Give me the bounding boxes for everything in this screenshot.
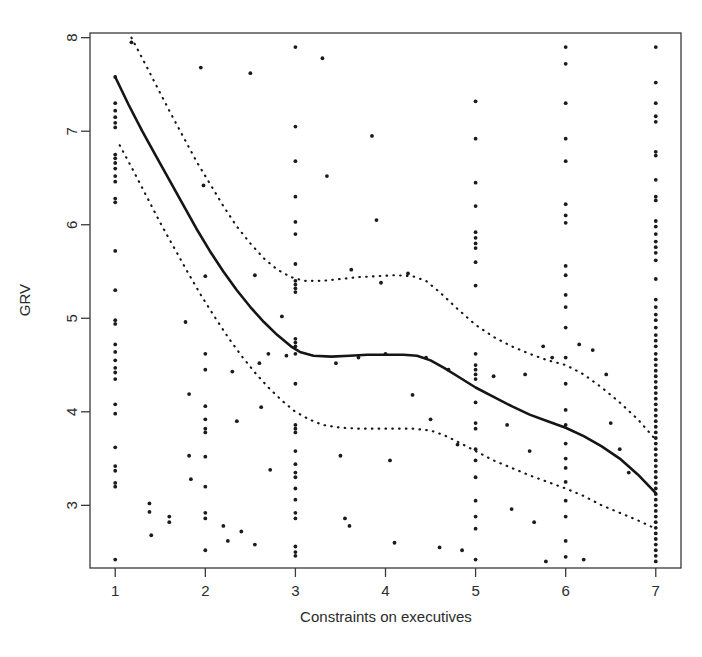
data-point [474, 284, 478, 288]
data-point [113, 156, 117, 160]
data-point [257, 361, 261, 365]
data-point [203, 517, 207, 521]
data-point [505, 423, 509, 427]
data-point [113, 445, 117, 449]
data-point [564, 466, 568, 470]
data-point [294, 279, 298, 283]
data-point [654, 258, 658, 262]
data-point [474, 515, 478, 519]
data-point [654, 318, 658, 322]
x-tick-label: 7 [652, 582, 660, 599]
x-tick-label: 2 [201, 582, 209, 599]
x-tick-label: 5 [471, 582, 479, 599]
data-point [654, 298, 658, 302]
data-point [474, 236, 478, 240]
data-point [203, 511, 207, 515]
x-axis-ticks: 1234567 [111, 568, 660, 599]
data-point [199, 66, 203, 70]
data-point [564, 264, 568, 268]
data-point [113, 167, 117, 171]
data-point [474, 246, 478, 250]
data-point [294, 341, 298, 345]
data-point [294, 554, 298, 558]
x-tick-label: 1 [111, 582, 119, 599]
y-tick-label: 7 [64, 127, 81, 135]
data-point [564, 408, 568, 412]
data-point [294, 427, 298, 431]
data-point [474, 181, 478, 185]
data-point [113, 366, 117, 370]
data-point [474, 260, 478, 264]
data-point [294, 195, 298, 199]
data-point [654, 195, 658, 199]
data-point [294, 159, 298, 163]
data-point [113, 558, 117, 562]
data-point [325, 174, 329, 178]
data-point [230, 370, 234, 374]
data-point [113, 200, 117, 204]
data-point [113, 469, 117, 473]
data-point [654, 219, 658, 223]
data-point [654, 464, 658, 468]
data-point [348, 524, 352, 528]
data-point [654, 305, 658, 309]
data-point [113, 412, 117, 416]
data-point [113, 161, 117, 165]
data-point [370, 134, 374, 138]
data-point [564, 293, 568, 297]
data-point [564, 305, 568, 309]
data-points-layer [113, 40, 657, 563]
data-point [189, 477, 193, 481]
data-point [627, 471, 631, 475]
data-point [654, 380, 658, 384]
data-point [294, 462, 298, 466]
data-point [654, 436, 658, 440]
x-axis-title: Constraints on executives [300, 608, 472, 625]
data-point [113, 481, 117, 485]
data-point [187, 392, 191, 396]
data-point [474, 401, 478, 405]
data-point [474, 352, 478, 356]
data-point [343, 517, 347, 521]
data-point [429, 417, 433, 421]
data-point [113, 174, 117, 178]
data-point [113, 121, 117, 125]
data-point [474, 558, 478, 562]
data-point [654, 459, 658, 463]
data-point [294, 487, 298, 491]
data-point [654, 81, 658, 85]
data-point [523, 372, 527, 376]
data-point [654, 313, 658, 317]
data-point [113, 485, 117, 489]
data-point [654, 515, 658, 519]
data-point [510, 507, 514, 511]
data-point [654, 344, 658, 348]
plot-canvas: 345678 1234567 GRV Constraints on execut… [0, 0, 702, 657]
data-point [474, 527, 478, 531]
data-point [130, 40, 134, 44]
data-point [113, 371, 117, 375]
data-point [564, 273, 568, 277]
data-point [654, 408, 658, 412]
data-point [203, 455, 207, 459]
data-point [564, 515, 568, 519]
data-point [474, 230, 478, 234]
data-point [654, 391, 658, 395]
data-point [474, 368, 478, 372]
y-tick-label: 5 [64, 314, 81, 322]
data-point [113, 249, 117, 253]
data-point [654, 543, 658, 547]
data-point [113, 377, 117, 381]
data-point [113, 322, 117, 326]
data-point [564, 62, 568, 66]
data-point [321, 56, 325, 60]
data-point [294, 430, 298, 434]
data-point [235, 419, 239, 423]
data-point [654, 339, 658, 343]
data-point [564, 101, 568, 105]
data-point [393, 541, 397, 545]
data-point [294, 125, 298, 129]
data-point [203, 485, 207, 489]
data-point [474, 372, 478, 376]
data-point [564, 356, 568, 360]
